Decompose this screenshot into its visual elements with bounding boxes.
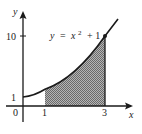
y-axis-label: y bbox=[12, 6, 18, 17]
point-3-10 bbox=[103, 34, 107, 38]
x-tick-label-1: 1 bbox=[42, 107, 47, 118]
x-axis-label: x bbox=[128, 109, 134, 120]
origin-label: 0 bbox=[13, 107, 18, 118]
equation-label: y = x 2 + 1 bbox=[49, 26, 100, 41]
y-tick-label-10: 10 bbox=[6, 31, 16, 42]
x-tick-label-3: 3 bbox=[102, 107, 107, 118]
y-tick-label-1: 1 bbox=[11, 92, 16, 103]
area-under-curve-diagram: y x 10 1 0 1 3 y = x 2 + 1 bbox=[0, 0, 142, 134]
